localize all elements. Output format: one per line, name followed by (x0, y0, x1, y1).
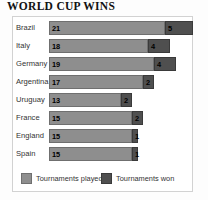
bar-segment-played: 18 (49, 39, 148, 53)
bar-segment-played: 15 (49, 147, 132, 161)
bar-value-won: 1 (135, 150, 139, 160)
bar-row: Argentina172 (13, 74, 192, 91)
bar-row: Spain151 (13, 146, 192, 163)
bar-segment-won: 5 (165, 21, 193, 35)
legend-swatch-played-icon (21, 173, 32, 184)
bar-row: England151 (13, 128, 192, 145)
bar-row: Brazil215 (13, 20, 192, 37)
bar-segment-played: 19 (49, 57, 154, 71)
bar-segment-played: 15 (49, 111, 132, 125)
stacked-bar: 152 (49, 111, 143, 125)
bar-row: Uruguay132 (13, 92, 192, 109)
bar-row: Italy184 (13, 38, 192, 55)
bar-segment-won: 2 (121, 93, 132, 107)
legend-item-played: Tournaments played (21, 173, 103, 184)
bar-segment-played: 17 (49, 75, 143, 89)
bar-segment-played: 21 (49, 21, 165, 35)
legend-label-won: Tournaments won (116, 174, 174, 184)
bar-segment-won: 2 (132, 111, 143, 125)
bar-value-won: 1 (135, 132, 139, 142)
bar-segment-won: 4 (154, 57, 176, 71)
bar-rows: Brazil215Italy184Germany194Argentina172U… (13, 20, 192, 164)
bar-segment-played: 15 (49, 129, 132, 143)
bar-value-played: 21 (52, 24, 60, 34)
legend-item-won: Tournaments won (101, 173, 174, 184)
bar-segment-won: 1 (132, 129, 138, 143)
stacked-bar: 194 (49, 57, 176, 71)
bar-value-won: 4 (157, 60, 161, 70)
bar-segment-played: 13 (49, 93, 121, 107)
bar-value-won: 2 (146, 78, 150, 88)
bar-value-played: 15 (52, 114, 60, 124)
stacked-bar: 172 (49, 75, 154, 89)
bar-value-won: 2 (124, 96, 128, 106)
bar-value-played: 17 (52, 78, 60, 88)
bar-value-won: 2 (135, 114, 139, 124)
bar-value-won: 5 (168, 24, 172, 34)
bar-value-played: 13 (52, 96, 60, 106)
bar-segment-won: 2 (143, 75, 154, 89)
bar-row: Germany194 (13, 56, 192, 73)
legend-label-played: Tournaments played (36, 174, 103, 184)
legend-swatch-won-icon (101, 173, 112, 184)
bar-row: France152 (13, 110, 192, 127)
infographic-page: WORLD CUP WINS Brazil215Italy184Germany1… (0, 0, 208, 200)
bar-segment-won: 1 (132, 147, 138, 161)
chart-panel: Brazil215Italy184Germany194Argentina172U… (12, 16, 193, 192)
stacked-bar: 215 (49, 21, 193, 35)
page-title: WORLD CUP WINS (7, 0, 115, 12)
bar-value-played: 15 (52, 132, 60, 142)
stacked-bar: 184 (49, 39, 170, 53)
bar-value-played: 19 (52, 60, 60, 70)
bar-segment-won: 4 (148, 39, 170, 53)
stacked-bar: 151 (49, 129, 138, 143)
bar-value-played: 18 (52, 42, 60, 52)
bar-value-won: 4 (151, 42, 155, 52)
stacked-bar: 151 (49, 147, 138, 161)
stacked-bar: 132 (49, 93, 132, 107)
bar-value-played: 15 (52, 150, 60, 160)
chart-legend: Tournaments played Tournaments won (13, 173, 192, 187)
